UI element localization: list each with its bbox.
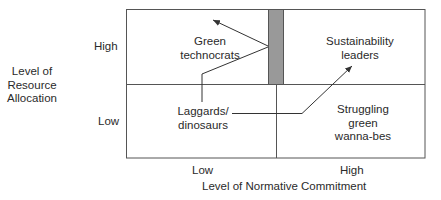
matrix-diagram (0, 0, 441, 200)
x-axis-title: Level of Normative Commitment (202, 180, 366, 194)
y-tick-high: High (94, 40, 118, 54)
x-tick-low: Low (192, 164, 213, 178)
quadrant-sustainability-leaders: Sustainability leaders (310, 35, 410, 62)
y-axis-title: Level of Resource Allocation (0, 65, 64, 106)
quadrant-struggling-green-wannabes: Struggling green wanna-bes (318, 103, 408, 144)
quadrant-green-technocrats: Green technocrats (172, 35, 248, 62)
quadrant-laggards-dinosaurs: Laggards/ dinosaurs (170, 105, 236, 132)
x-tick-high: High (340, 164, 364, 178)
y-tick-low: Low (98, 115, 119, 129)
transition-bar (269, 10, 284, 85)
